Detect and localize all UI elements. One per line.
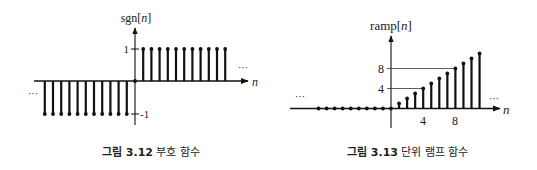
ramp-ylabel: ramp[n]	[370, 18, 412, 33]
sgn-ytick-label-minus1: -1	[140, 108, 149, 120]
stem-marker	[413, 92, 417, 96]
sgn-ytick-label-1: 1	[124, 43, 130, 55]
figure-number: 그림 3.12	[102, 146, 153, 159]
stem-marker	[43, 112, 47, 116]
stem-marker	[76, 112, 80, 116]
stem-marker	[341, 107, 345, 111]
stem-marker	[445, 72, 449, 76]
stem-marker	[333, 107, 337, 111]
figure-title: 부호 함수	[156, 146, 200, 159]
figure-caption-sgn: 그림 3.12 부호 함수	[102, 143, 200, 159]
figure-caption-ramp: 그림 3.13 단위 램프 함수	[347, 143, 468, 159]
stem-marker	[454, 67, 458, 71]
stem-marker	[125, 112, 129, 116]
stem-marker	[68, 112, 72, 116]
stem-marker	[109, 112, 113, 116]
stem-marker	[397, 102, 401, 106]
stem-marker	[317, 107, 321, 111]
sgn-ellipsis-left: ···	[28, 88, 38, 99]
stem-marker	[437, 77, 441, 81]
ramp-xtick-label-4: 4	[420, 114, 426, 128]
sgn-stem-plot: sgn[n] 1 -1 n ··· ···	[28, 11, 258, 125]
stem-marker	[429, 82, 433, 86]
stem-marker	[117, 112, 121, 116]
stem-marker	[207, 47, 211, 51]
ramp-stem-plot: ramp[n] 8 4 4 8 n ··· ···	[290, 18, 510, 128]
stem-marker	[357, 107, 361, 111]
sgn-xlabel: n	[252, 75, 258, 89]
ramp-reference-lines	[387, 69, 455, 89]
sgn-ylabel: sgn[n]	[121, 11, 152, 25]
ramp-ytick-label-4: 4	[378, 82, 384, 96]
ramp-xtick-label-8: 8	[452, 114, 458, 128]
stem-marker	[150, 47, 154, 51]
stem-marker	[182, 47, 186, 51]
stem-marker	[166, 47, 170, 51]
ramp-ellipsis-left: ···	[295, 91, 305, 102]
ramp-stems	[317, 52, 482, 111]
stem-marker	[141, 47, 145, 51]
figure-number: 그림 3.13	[347, 146, 398, 159]
stem-marker	[349, 107, 353, 111]
stem-marker	[365, 107, 369, 111]
ramp-xlabel: n	[503, 102, 510, 117]
stem-marker	[389, 107, 393, 111]
ramp-ellipsis-right: ···	[489, 93, 499, 104]
stem-marker	[51, 112, 55, 116]
stem-marker	[405, 97, 409, 101]
stem-marker	[215, 47, 219, 51]
stem-marker	[133, 79, 137, 83]
stem-marker	[199, 47, 203, 51]
figure-title: 단위 램프 함수	[401, 146, 468, 159]
stem-marker	[84, 112, 88, 116]
stem-marker	[421, 87, 425, 91]
stem-marker	[92, 112, 96, 116]
stem-marker	[462, 62, 466, 66]
stem-marker	[478, 52, 482, 56]
stem-marker	[223, 47, 227, 51]
stem-marker	[100, 112, 104, 116]
stem-marker	[158, 47, 162, 51]
stem-marker	[325, 107, 329, 111]
stem-marker	[191, 47, 195, 51]
sgn-ellipsis-right: ···	[238, 62, 248, 73]
stem-marker	[373, 107, 377, 111]
stem-marker	[59, 112, 63, 116]
stem-marker	[174, 47, 178, 51]
stem-marker	[381, 107, 385, 111]
stem-marker	[470, 57, 474, 61]
ramp-ytick-label-8: 8	[378, 62, 384, 76]
